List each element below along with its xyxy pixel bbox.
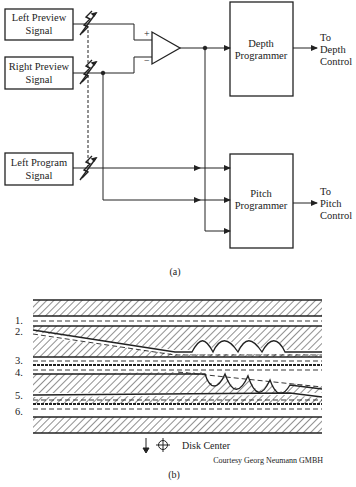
disk-center-indicator bbox=[143, 438, 170, 453]
depth-output-label: To bbox=[320, 32, 331, 43]
pitch-output-label: Pitch bbox=[320, 198, 342, 209]
left-preview-label: Signal bbox=[26, 25, 53, 36]
depth-programmer-label: Depth bbox=[248, 38, 274, 49]
crosshair-icon bbox=[156, 438, 170, 452]
left-preview-label: Left Preview bbox=[12, 12, 67, 23]
depth-output-label: Depth bbox=[320, 44, 346, 55]
groove-label-2: 2. bbox=[15, 326, 23, 337]
groove-label-6: 6. bbox=[15, 406, 23, 417]
credit-line: Courtesy Georg Neumann GMBH bbox=[213, 456, 323, 465]
amp-minus-sign: − bbox=[144, 55, 150, 66]
groove-label-5: 5. bbox=[15, 390, 23, 401]
figure: Left Preview Signal Right Preview Signal… bbox=[0, 0, 356, 487]
amp-plus-sign: + bbox=[144, 28, 150, 39]
depth-programmer-label: Programmer bbox=[235, 50, 288, 61]
pitch-programmer-label: Programmer bbox=[235, 200, 288, 211]
differential-amplifier-icon bbox=[152, 32, 180, 64]
groove-label-4: 4. bbox=[15, 367, 23, 378]
groove-label-1: 1. bbox=[15, 315, 23, 326]
figure-a-caption: (a) bbox=[169, 266, 180, 278]
pitch-programmer-label: Pitch bbox=[250, 188, 272, 199]
left-program-label: Left Program bbox=[11, 157, 67, 168]
pitch-output-label: To bbox=[320, 186, 331, 197]
pitch-output-label: Control bbox=[320, 210, 352, 221]
groove-cross-section bbox=[33, 300, 322, 433]
right-preview-label: Signal bbox=[26, 74, 53, 85]
right-preview-label: Right Preview bbox=[9, 61, 70, 72]
left-program-label: Signal bbox=[26, 170, 53, 181]
depth-output-label: Control bbox=[320, 56, 352, 67]
groove-label-3: 3. bbox=[15, 355, 23, 366]
figure-b-caption: (b) bbox=[168, 469, 180, 481]
disk-center-label: Disk Center bbox=[182, 440, 231, 451]
depth-programmer-box bbox=[230, 2, 293, 96]
